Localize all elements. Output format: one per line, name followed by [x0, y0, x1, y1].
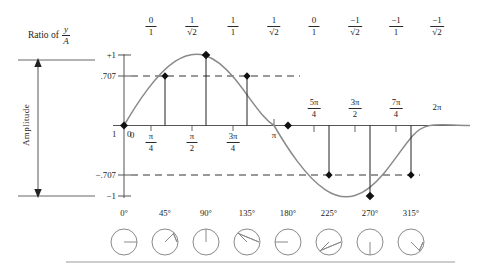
- x-axis-tick-fraction: 5π4: [308, 98, 321, 119]
- origin-left-label: 1: [112, 130, 116, 139]
- phasor-circle: [190, 226, 222, 258]
- phasor-svg: [190, 226, 222, 258]
- ratio-value-numerator: 1: [270, 16, 279, 25]
- phasor-circle: [395, 226, 427, 258]
- phasor-circle: [354, 226, 386, 258]
- phasor-svg: [231, 226, 263, 258]
- phasor-circle: [149, 226, 181, 258]
- phase-degree-label: 225°: [321, 208, 337, 218]
- ratio-header: Ratio of y A: [28, 25, 70, 46]
- y-axis-tick-label: .707: [84, 71, 116, 81]
- phasor-svg: [272, 226, 304, 258]
- x-axis-tick-fraction: 3π4: [227, 132, 240, 153]
- ratio-value: −1√2: [348, 16, 362, 38]
- x-tick-numerator: 3π: [227, 132, 240, 141]
- ratio-value-denominator: √2: [267, 28, 280, 37]
- x-axis-tick-fraction: π4: [146, 132, 157, 153]
- ratio-value-denominator: 1: [310, 28, 319, 37]
- ratio-value-denominator: √2: [348, 28, 361, 37]
- phasor-circle: [231, 226, 263, 258]
- x-tick-denominator: 4: [392, 110, 400, 119]
- ratio-value: 01: [309, 16, 320, 38]
- amplitude-label: Amplitude: [21, 88, 31, 162]
- ratio-value-denominator: 1: [392, 28, 401, 37]
- x-axis-tick-label: π: [272, 130, 276, 140]
- ratio-value: 11: [228, 16, 239, 38]
- ratio-value: −1√2: [430, 16, 444, 38]
- x-tick-denominator: 2: [351, 110, 359, 119]
- ratio-value-denominator: √2: [185, 28, 198, 37]
- x-axis-tick-fraction: 3π2: [349, 98, 362, 119]
- phasor-svg: [149, 226, 181, 258]
- ratio-value: 1√2: [267, 16, 280, 38]
- phase-degree-label: 315°: [403, 208, 419, 218]
- x-tick-numerator: 3π: [349, 98, 362, 107]
- x-tick-denominator: 4: [147, 144, 155, 153]
- phase-degree-label: 135°: [239, 208, 255, 218]
- phase-degree-label: 90°: [200, 208, 212, 218]
- phasor-circle: [272, 226, 304, 258]
- ratio-value-numerator: −1: [348, 16, 362, 25]
- phase-degree-label: 180°: [280, 208, 296, 218]
- ratio-value: 01: [146, 16, 157, 38]
- phase-degree-label: 0°: [120, 208, 128, 218]
- phasor-svg: [354, 226, 386, 258]
- ratio-value-numerator: 1: [188, 16, 197, 25]
- ratio-value-denominator: √2: [430, 28, 443, 37]
- ratio-header-text: Ratio of: [28, 31, 59, 41]
- ratio-value: −11: [389, 16, 403, 38]
- x-tick-denominator: 4: [310, 110, 318, 119]
- x-axis-tick-fraction: 7π4: [390, 98, 403, 119]
- phasor-circle: [313, 226, 345, 258]
- phasor-svg: [395, 226, 427, 258]
- ratio-value-numerator: 1: [229, 16, 238, 25]
- ratio-value: 1√2: [185, 16, 198, 38]
- phasor-svg: [313, 226, 345, 258]
- ratio-value-numerator: −1: [389, 16, 403, 25]
- x-tick-numerator: 5π: [308, 98, 321, 107]
- phase-degree-label: 270°: [362, 208, 378, 218]
- ratio-value-numerator: −1: [430, 16, 444, 25]
- x-tick-numerator: π: [188, 132, 196, 141]
- y-axis-tick-label: +1: [84, 50, 116, 60]
- x-tick-numerator: 7π: [390, 98, 403, 107]
- ratio-value-numerator: 0: [310, 16, 319, 25]
- y-axis-tick-label: −1: [84, 191, 116, 201]
- ratio-numerator: y: [64, 25, 68, 34]
- x-tick-numerator: π: [147, 132, 155, 141]
- x-tick-denominator: 2: [188, 144, 196, 153]
- x-axis-tick-label: 2π: [433, 102, 442, 112]
- x-axis-tick-fraction: π2: [187, 132, 198, 153]
- y-axis-tick-label: −.707: [84, 170, 116, 180]
- ratio-value-denominator: 1: [147, 28, 156, 37]
- phasor-radius: [411, 242, 420, 251]
- ratio-denominator: A: [63, 37, 69, 46]
- phasor-svg: [108, 226, 140, 258]
- ratio-value-denominator: 1: [229, 28, 238, 37]
- phase-degree-label: 45°: [159, 208, 171, 218]
- phasor-circle: [108, 226, 140, 258]
- sine-wave-figure: Ratio of y A 011√2111√201−1√2−11−1√2 +1.…: [0, 0, 489, 272]
- x-axis-tick-label: 0: [130, 130, 134, 140]
- ratio-value-numerator: 0: [147, 16, 156, 25]
- x-tick-denominator: 4: [229, 144, 237, 153]
